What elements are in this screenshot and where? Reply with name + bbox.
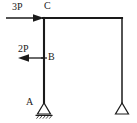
support-a-pinned xyxy=(36,103,53,119)
joint-label-c: C xyxy=(44,1,51,11)
support-a-ground-hatching xyxy=(37,116,52,119)
joint-label-b: B xyxy=(48,52,55,62)
load-label-3p: 3P xyxy=(12,2,23,12)
support-right-triangle xyxy=(116,103,129,114)
load-label-2p: 2P xyxy=(18,44,29,54)
structural-frame-diagram: 3P C 2P B A xyxy=(0,0,137,123)
frame-drawing-canvas xyxy=(0,0,137,123)
support-label-a: A xyxy=(26,97,33,107)
support-right-pinned xyxy=(116,103,129,114)
load-arrow-2p xyxy=(18,54,44,62)
support-a-triangle xyxy=(38,103,51,114)
load-2p-arrowhead xyxy=(18,54,29,62)
load-arrow-3p xyxy=(6,14,44,22)
load-3p-arrowhead xyxy=(33,14,44,22)
